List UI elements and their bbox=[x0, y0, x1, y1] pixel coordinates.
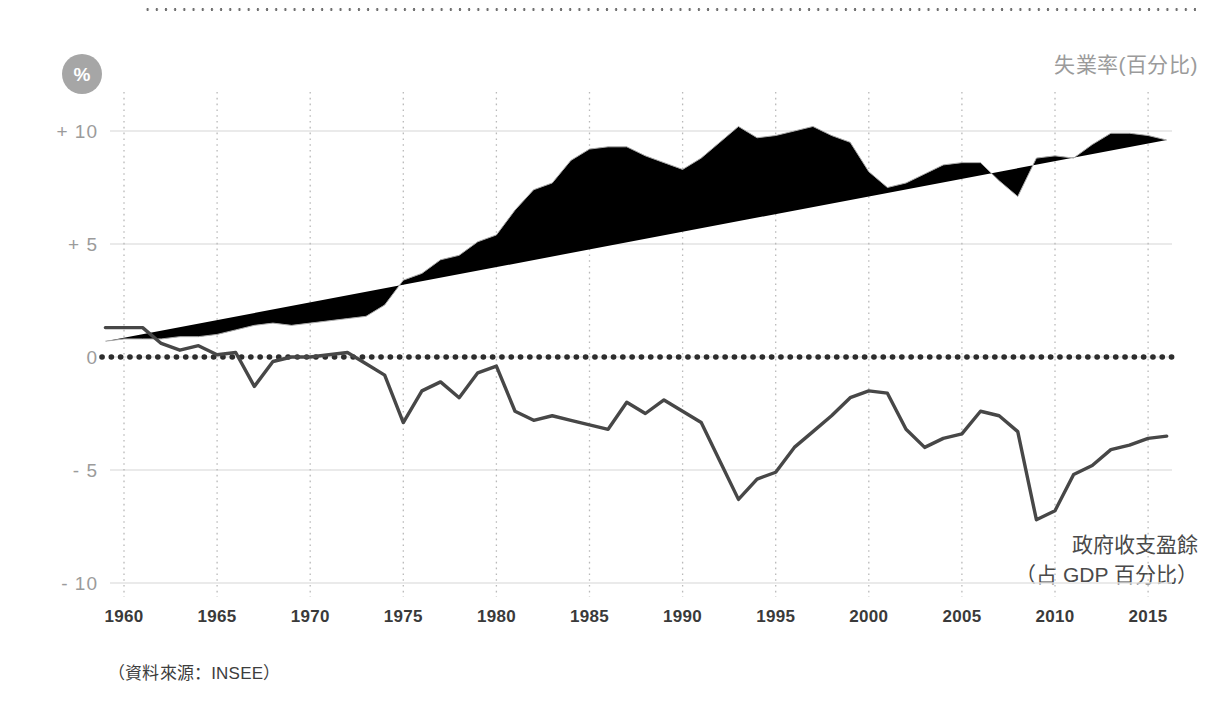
x-tick-label-1975: 1975 bbox=[384, 607, 423, 626]
series-line-unemployment bbox=[105, 126, 1166, 341]
x-tick-label-1960: 1960 bbox=[104, 607, 143, 626]
x-tick-label-1970: 1970 bbox=[291, 607, 330, 626]
y-tick-label-10: + 10 bbox=[56, 121, 98, 142]
x-tick-label-1965: 1965 bbox=[198, 607, 237, 626]
chart-page: % 失業率(百分比) 政府收支盈餘 （占 GDP 百分比） （資料來源：INSE… bbox=[0, 0, 1224, 706]
x-tick-label-1980: 1980 bbox=[477, 607, 516, 626]
data-series bbox=[105, 126, 1166, 519]
y-tick-label-5: + 5 bbox=[68, 234, 98, 255]
x-tick-label-2005: 2005 bbox=[942, 607, 981, 626]
x-tick-label-2015: 2015 bbox=[1129, 607, 1168, 626]
x-tick-label-1985: 1985 bbox=[570, 607, 609, 626]
x-tick-label-2000: 2000 bbox=[849, 607, 888, 626]
axis-labels-x: 1960196519701975198019851990199520002005… bbox=[104, 607, 1167, 626]
y-tick-label--10: - 10 bbox=[61, 573, 98, 594]
y-tick-label--5: - 5 bbox=[73, 460, 98, 481]
x-tick-label-1995: 1995 bbox=[756, 607, 795, 626]
axis-labels-y: + 10+ 50- 5- 10 bbox=[56, 121, 98, 594]
x-tick-label-2010: 2010 bbox=[1035, 607, 1074, 626]
x-tick-label-1990: 1990 bbox=[663, 607, 702, 626]
y-tick-label-0: 0 bbox=[86, 347, 98, 368]
line-chart: + 10+ 50- 5- 10 196019651970197519801985… bbox=[0, 0, 1224, 706]
